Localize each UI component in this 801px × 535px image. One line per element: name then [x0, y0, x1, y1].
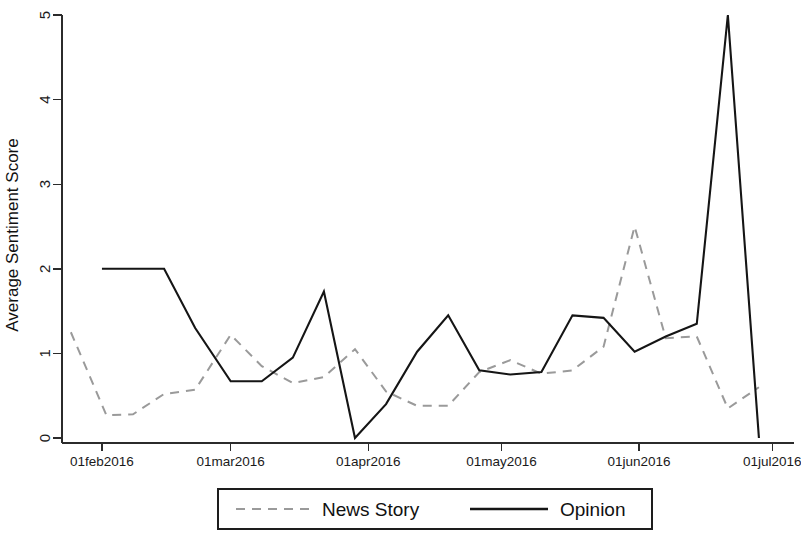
y-axis-tick-label: 4: [36, 95, 53, 103]
x-axis-tick-label: 01feb2016: [70, 454, 134, 469]
series-line-opinion: [102, 15, 759, 438]
y-axis-tick-label: 0: [36, 434, 53, 442]
chart-legend: News StoryOpinion: [218, 489, 652, 529]
series-line-news-story: [71, 227, 759, 416]
sentiment-chart-figure: 012345 01feb201601mar201601apr201601may2…: [0, 0, 801, 535]
chart-canvas: 012345 01feb201601mar201601apr201601may2…: [0, 0, 801, 535]
y-axis-tick-label: 3: [36, 180, 53, 188]
x-axis-tick-label: 01jul2016: [743, 454, 801, 469]
x-axis-tick-label: 01jun2016: [608, 454, 671, 469]
x-axis: 01feb201601mar201601apr201601may201601ju…: [62, 443, 801, 469]
legend-label-news-story: News Story: [322, 499, 420, 520]
x-axis-tick-label: 01mar2016: [197, 454, 265, 469]
legend-label-opinion: Opinion: [560, 499, 626, 520]
y-axis-tick-label: 5: [36, 11, 53, 19]
y-axis-title: Average Sentiment Score: [3, 138, 22, 331]
x-axis-tick-label: 01apr2016: [336, 454, 401, 469]
y-axis: 012345: [36, 11, 62, 443]
series-lines: [71, 15, 759, 438]
y-axis-tick-label: 2: [36, 265, 53, 273]
y-axis-tick-label: 1: [36, 349, 53, 357]
x-axis-tick-label: 01may2016: [466, 454, 537, 469]
